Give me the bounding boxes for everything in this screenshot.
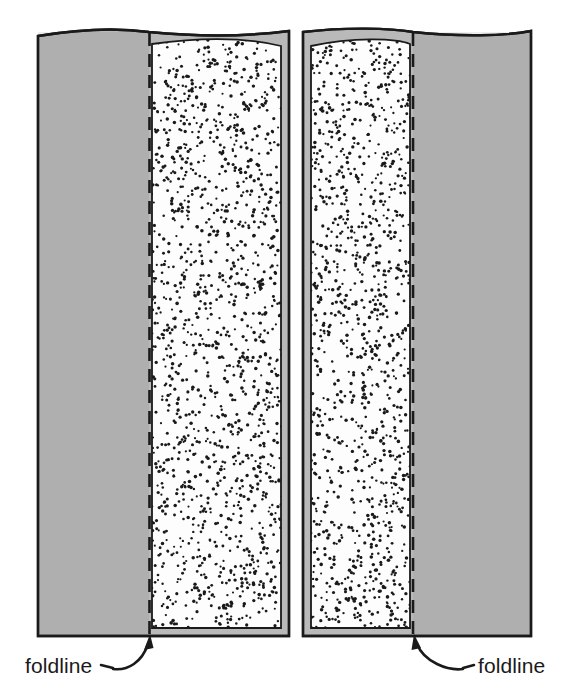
left-label-dash: [101, 665, 113, 668]
left-leader-arrow-icon: [113, 644, 148, 669]
right-label-dash: [463, 665, 474, 668]
left-figure: [38, 30, 289, 636]
right-foldline-annotation: foldline: [412, 634, 546, 677]
right-leader-arrow-icon: [417, 644, 463, 669]
foldline-figure: foldline foldline: [0, 0, 575, 700]
left-foldline-annotation: foldline: [25, 634, 154, 677]
right-figure: [303, 29, 531, 636]
right-foldline-label: foldline: [478, 654, 545, 677]
figure-canvas: foldline foldline: [0, 0, 575, 700]
right-stipple-region: [311, 39, 410, 628]
left-foldline-label: foldline: [25, 654, 92, 677]
left-gray-texture: [38, 32, 149, 636]
right-gray-texture: [413, 32, 531, 636]
